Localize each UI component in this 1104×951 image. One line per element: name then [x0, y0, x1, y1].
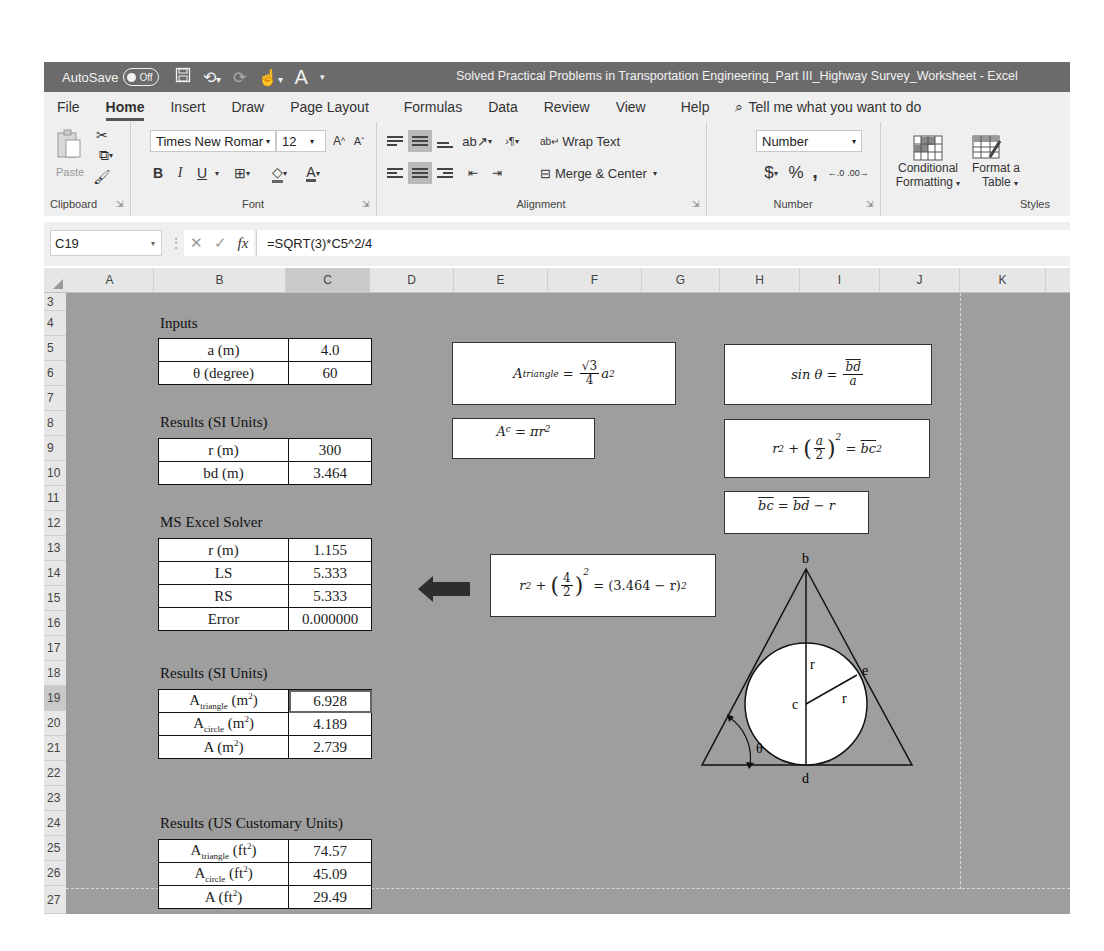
equation-solver[interactable]: r2 + (42)2 = (3.464 − r)2 [490, 554, 716, 617]
currency-button[interactable]: $▾ [758, 162, 784, 184]
increase-decimal-icon[interactable]: ←.0 [826, 162, 846, 184]
select-all-button[interactable] [44, 268, 66, 292]
cell-value[interactable]: 3.464 [289, 462, 372, 485]
undo-icon[interactable]: ⟲▾ [203, 68, 221, 87]
formula-input[interactable]: =SQRT(3)*C5^2/4 [256, 230, 1070, 256]
cell-label[interactable]: r (m) [159, 439, 289, 462]
font-launcher-icon[interactable]: ⇲ [362, 199, 370, 209]
row-header[interactable]: 22 [44, 761, 66, 786]
tell-me-search[interactable]: ⌕ Tell me what you want to do [723, 99, 922, 116]
cell-value[interactable]: 4.189 [289, 713, 372, 736]
bottom-align-icon[interactable] [434, 134, 456, 156]
cell-value[interactable]: 5.333 [289, 585, 372, 608]
align-right-icon[interactable] [434, 162, 456, 184]
merge-center-button[interactable]: ⊟ Merge & Center ▾ [540, 162, 680, 184]
column-header-d[interactable]: D [370, 268, 454, 292]
autosave-control[interactable]: AutoSave Off [62, 68, 159, 86]
cell-label[interactable]: Error [159, 608, 289, 631]
row-header[interactable]: 18 [44, 661, 66, 686]
wrap-text-button[interactable]: ab↵ Wrap Text [540, 130, 640, 152]
clipboard-launcher-icon[interactable]: ⇲ [116, 199, 124, 209]
cell-label[interactable]: a (m) [159, 339, 289, 362]
tab-help[interactable]: Help [659, 99, 723, 115]
row-header[interactable]: 27 [44, 886, 66, 914]
column-header-k[interactable]: K [960, 268, 1046, 292]
sheet-area[interactable]: Inputs a (m)4.0 θ (degree)60 Results (SI… [66, 293, 1070, 914]
column-header-e[interactable]: E [454, 268, 548, 292]
row-header[interactable]: 21 [44, 736, 66, 761]
alignment-launcher-icon[interactable]: ⇲ [692, 199, 700, 209]
cell-label[interactable]: A (m2) [159, 736, 289, 759]
cell-value[interactable]: 29.49 [289, 886, 372, 909]
column-header-i[interactable]: I [800, 268, 880, 292]
equation-sin-theta[interactable]: sin θ = bda [724, 344, 932, 405]
tab-page-layout[interactable]: Page Layout [277, 99, 382, 115]
cell-value[interactable]: 2.739 [289, 736, 372, 759]
decrease-decimal-icon[interactable]: .00→ [848, 162, 868, 184]
row-header[interactable]: 17 [44, 636, 66, 661]
cell-label[interactable]: RS [159, 585, 289, 608]
column-header-h[interactable]: H [720, 268, 800, 292]
cancel-icon[interactable]: ✕ [190, 234, 203, 252]
copy-icon[interactable]: ⧉▾ [92, 146, 120, 164]
row-header[interactable]: 8 [44, 411, 66, 436]
row-header[interactable]: 3 [44, 293, 66, 311]
cell-value[interactable]: 5.333 [289, 562, 372, 585]
conditional-formatting-button[interactable]: Conditional Formatting ▾ [888, 124, 968, 200]
paste-icon[interactable] [52, 126, 88, 162]
cell-label[interactable]: Acircle (m2) [159, 713, 289, 736]
increase-font-icon[interactable]: A^ [330, 130, 348, 152]
cell-label[interactable]: Atriangle (m2) [159, 690, 289, 713]
cell-label[interactable]: Acircle (ft2) [159, 863, 289, 886]
increase-indent-icon[interactable]: ⇥ [486, 162, 508, 184]
tab-file[interactable]: File [44, 99, 93, 115]
percent-button[interactable]: % [786, 162, 806, 184]
row-header[interactable]: 23 [44, 786, 66, 811]
cell-label[interactable]: A (ft2) [159, 886, 289, 909]
underline-button[interactable]: U [194, 162, 210, 184]
format-as-table-button[interactable]: Format a Table ▾ [972, 124, 1042, 200]
drag-handle-icon[interactable]: ⋮ [170, 236, 182, 250]
tab-formulas[interactable]: Formulas [382, 99, 475, 115]
cell-label[interactable]: θ (degree) [159, 362, 289, 385]
touch-mode-icon[interactable]: ☝▾ [258, 68, 283, 87]
orientation-icon[interactable]: ab↗▾ [462, 130, 492, 152]
redo-icon[interactable]: ⟳ [233, 68, 246, 87]
enter-icon[interactable]: ✓ [214, 234, 227, 252]
cell-value[interactable]: 60 [289, 362, 372, 385]
cell-label[interactable]: r (m) [159, 539, 289, 562]
row-header[interactable]: 12 [44, 511, 66, 536]
row-header[interactable]: 26 [44, 861, 66, 886]
tab-home[interactable]: Home [93, 99, 158, 115]
underline-dropdown-icon[interactable]: ▾ [212, 162, 222, 184]
row-header[interactable]: 7 [44, 386, 66, 411]
row-header[interactable]: 16 [44, 611, 66, 636]
row-header-selected[interactable]: 19 [44, 686, 66, 711]
row-header[interactable]: 5 [44, 336, 66, 361]
tab-data[interactable]: Data [475, 99, 531, 115]
equation-pythagoras[interactable]: r2 + (a2)2 = bc2 [724, 419, 930, 478]
column-header-j[interactable]: J [880, 268, 960, 292]
cell-label[interactable]: LS [159, 562, 289, 585]
column-header-c[interactable]: C [286, 268, 370, 292]
decrease-indent-icon[interactable]: ⇤ [462, 162, 484, 184]
row-header[interactable]: 24 [44, 811, 66, 836]
autosave-toggle[interactable]: Off [123, 68, 158, 86]
align-left-icon[interactable] [384, 162, 406, 184]
equation-circle-area[interactable]: Ac = πr2 [452, 418, 595, 459]
cell-value[interactable]: 4.0 [289, 339, 372, 362]
cell-label[interactable]: bd (m) [159, 462, 289, 485]
row-header[interactable]: 20 [44, 711, 66, 736]
borders-icon[interactable]: ⊞▾ [228, 162, 256, 184]
row-header[interactable]: 25 [44, 836, 66, 861]
row-header[interactable]: 11 [44, 486, 66, 511]
middle-align-icon[interactable] [408, 130, 432, 152]
row-header[interactable]: 13 [44, 536, 66, 561]
name-box[interactable]: C19 ▾ [50, 230, 162, 256]
bold-button[interactable]: B [150, 162, 166, 184]
cell-value[interactable]: 1.155 [289, 539, 372, 562]
column-header-a[interactable]: A [66, 268, 154, 292]
cell-value[interactable]: 0.000000 [289, 608, 372, 631]
font-color-icon[interactable]: A [295, 66, 308, 89]
equation-triangle-area[interactable]: Atriangle = √34 a2 [452, 342, 676, 405]
